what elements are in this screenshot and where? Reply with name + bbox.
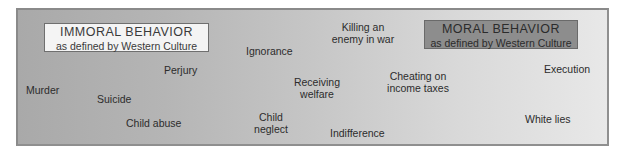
item-cheating-taxes-line1: Cheating on	[382, 70, 454, 82]
item-perjury: Perjury	[164, 64, 197, 76]
moral-subtitle: as defined by Western Culture	[425, 36, 577, 50]
item-white-lies: White lies	[525, 113, 571, 125]
item-suicide: Suicide	[97, 93, 131, 105]
immoral-subtitle: as defined by Western Culture	[45, 39, 208, 53]
item-receiving-welfare-line1: Receiving	[290, 76, 344, 88]
item-child-neglect: Child neglect	[253, 111, 289, 135]
item-execution: Execution	[544, 63, 590, 75]
item-murder: Murder	[26, 84, 59, 96]
item-killing-enemy: Killing an enemy in war	[326, 21, 400, 45]
item-indifference: Indifference	[330, 127, 385, 139]
item-child-neglect-line2: neglect	[253, 123, 289, 135]
item-receiving-welfare: Receiving welfare	[290, 76, 344, 100]
immoral-behavior-label: IMMORAL BEHAVIOR as defined by Western C…	[44, 23, 209, 52]
moral-title: MORAL BEHAVIOR	[425, 22, 577, 36]
item-child-neglect-line1: Child	[253, 111, 289, 123]
item-receiving-welfare-line2: welfare	[290, 88, 344, 100]
item-cheating-taxes: Cheating on income taxes	[382, 70, 454, 94]
item-killing-enemy-line2: enemy in war	[326, 33, 400, 45]
immoral-title: IMMORAL BEHAVIOR	[45, 25, 208, 39]
item-killing-enemy-line1: Killing an	[326, 21, 400, 33]
item-ignorance: Ignorance	[246, 45, 293, 57]
moral-behavior-label: MORAL BEHAVIOR as defined by Western Cul…	[424, 20, 578, 49]
item-child-abuse: Child abuse	[126, 117, 181, 129]
item-cheating-taxes-line2: income taxes	[382, 82, 454, 94]
